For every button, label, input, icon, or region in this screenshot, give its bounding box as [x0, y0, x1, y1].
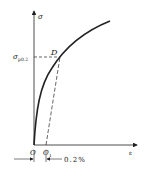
x-axis-label: ε — [129, 149, 132, 156]
offset-origin-sub: 1 — [49, 153, 52, 158]
stress-strain-curve — [34, 21, 110, 145]
offset-dimension-label: 0.2% — [64, 156, 86, 164]
offset-dashed-line — [46, 57, 60, 145]
yield-label-sub: p0.2 — [18, 57, 28, 62]
point-d-label: D — [50, 48, 58, 57]
stress-strain-diagram: σ ε σ p0.2 D O O 1 0.2% — [0, 0, 150, 179]
y-axis-label: σ — [38, 13, 43, 21]
origin-label: O — [30, 149, 36, 157]
